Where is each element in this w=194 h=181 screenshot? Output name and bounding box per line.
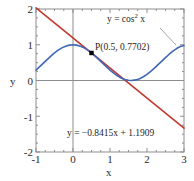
cos-squared-series-label: y = cos2 x <box>107 15 145 25</box>
tangent-line-series <box>36 8 184 128</box>
x-tick-label-3: 3 <box>178 154 190 165</box>
tangent-equation-label: y = −0.8415x + 1.1909 <box>67 129 154 139</box>
x-axis-label: x <box>106 167 112 178</box>
y-axis-label: y <box>10 76 16 87</box>
tangency-point-marker <box>89 51 93 55</box>
y-tick-label-1: 1 <box>25 40 33 51</box>
tangency-point-label: P(0.5, 0.7702) <box>95 43 149 53</box>
annotation-leader-line <box>160 28 176 45</box>
cos-squared-tangent-line-chart: 2 1 0 -1 -2 -1 0 1 2 3 y x y = cos2 x P(… <box>0 0 194 181</box>
y-tick-label-0: 0 <box>25 76 33 87</box>
y-tick-label-2: 2 <box>25 4 33 15</box>
cos-squared-label-text: y = cos <box>107 14 135 24</box>
x-tick-label-2: 2 <box>141 154 153 165</box>
cos-squared-label-tail: x <box>138 14 145 24</box>
x-tick-label-neg1: -1 <box>29 154 43 165</box>
x-tick-label-0: 0 <box>67 154 79 165</box>
x-tick-label-1: 1 <box>104 154 116 165</box>
y-tick-label-neg1: -1 <box>20 112 33 123</box>
